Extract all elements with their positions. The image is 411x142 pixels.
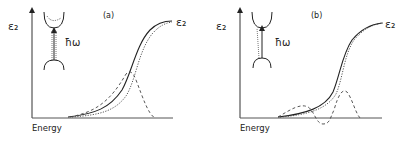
x-axis-label: Energy (32, 123, 62, 133)
photon-label: ħω (275, 37, 290, 48)
figure: ε₂ Energy (a) ε₂ ħω ε₂ Energy (b) ε₂ ħω (0, 0, 411, 142)
band-diagram-icon (252, 12, 272, 68)
y-axis-label: ε₂ (216, 20, 226, 33)
band-diagram-icon (44, 12, 64, 70)
epsilon2-solid-curve (278, 23, 382, 117)
panel-label: (a) (103, 11, 114, 20)
x-axis-label: Energy (240, 123, 270, 133)
panel-a: ε₂ Energy (a) ε₂ ħω (8, 10, 186, 133)
y-axis-label: ε₂ (8, 20, 18, 33)
epsilon2-dotted-curve (280, 23, 383, 117)
difference-dashed-curve (278, 91, 360, 124)
curve-label: ε₂ (176, 16, 186, 29)
panel-b: ε₂ Energy (b) ε₂ ħω (216, 10, 395, 133)
photon-label: ħω (65, 37, 80, 48)
epsilon2-dotted-curve (72, 22, 172, 117)
epsilon2-solid-curve (68, 21, 172, 117)
curve-label: ε₂ (385, 18, 395, 31)
panel-label: (b) (311, 11, 322, 20)
difference-dashed-curve (70, 72, 155, 118)
